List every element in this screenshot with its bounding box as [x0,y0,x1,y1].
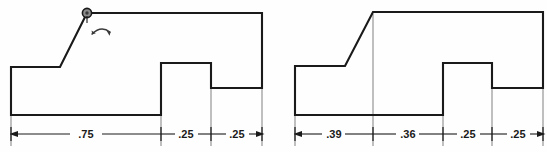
dimension-label: .75 [78,128,94,140]
drawing-canvas: .75 .25 .25 [0,0,547,152]
dimension-line-left [11,127,262,141]
dimension-label: .25 [229,128,245,140]
left-figure-group: .75 .25 .25 [11,8,262,146]
dimension-label: .25 [510,128,526,140]
extension-lines-left [11,88,262,146]
right-figure-group: .39 .36 .25 .25 [295,12,543,146]
dimension-label: .25 [460,128,476,140]
engineering-drawing-sheet: .75 .25 .25 [0,0,547,152]
part-outline-right [295,12,543,115]
rotation-arc-arrow-icon [92,29,111,36]
extension-lines-right [295,14,543,146]
dimension-label: .39 [326,128,342,140]
dimension-label: .25 [178,128,194,140]
part-outline-left [11,13,262,115]
dimension-label: .36 [400,128,416,140]
